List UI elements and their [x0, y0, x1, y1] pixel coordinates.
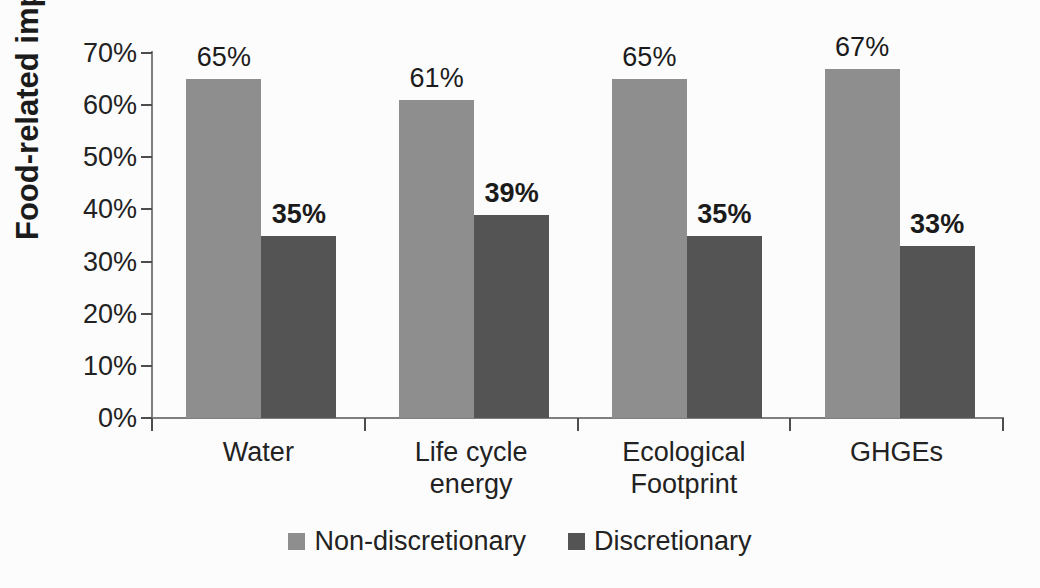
bar-discretionary-life-cycle-energy — [474, 215, 549, 418]
category-label-life-cycle-energy: Life cycle energy — [365, 436, 577, 500]
y-tick-label: 40% — [67, 194, 137, 224]
y-tick-mark — [141, 261, 152, 263]
legend: Non-discretionaryDiscretionary — [0, 526, 1040, 557]
bar-non-discretionary-ecological-footprint — [612, 79, 687, 418]
y-tick-label: 60% — [67, 90, 137, 120]
bar-value-label: 33% — [882, 209, 992, 239]
bar-non-discretionary-life-cycle-energy — [399, 100, 474, 418]
legend-item-non-discretionary: Non-discretionary — [288, 526, 526, 557]
y-tick-mark — [141, 208, 152, 210]
y-tick-label: 70% — [67, 38, 137, 68]
x-boundary-tick-mark — [151, 418, 153, 431]
y-tick-mark — [141, 313, 152, 315]
bar-value-label: 35% — [669, 199, 779, 229]
bar-non-discretionary-ghges — [825, 69, 900, 418]
y-tick-mark — [141, 104, 152, 106]
bar-value-label: 35% — [244, 199, 354, 229]
x-boundary-tick-mark — [364, 418, 366, 431]
x-boundary-tick-mark — [577, 418, 579, 431]
y-tick-mark — [141, 156, 152, 158]
bar-value-label: 67% — [807, 32, 917, 62]
legend-swatch-non-discretionary — [288, 533, 305, 550]
y-tick-label: 30% — [67, 247, 137, 277]
legend-item-discretionary: Discretionary — [568, 526, 752, 557]
bar-value-label: 65% — [594, 42, 704, 72]
bar-non-discretionary-water — [186, 79, 261, 418]
y-tick-label: 0% — [67, 403, 137, 433]
bar-discretionary-ecological-footprint — [687, 236, 762, 419]
bar-discretionary-water — [261, 236, 336, 419]
bar-discretionary-ghges — [900, 246, 975, 418]
bar-value-label: 61% — [382, 63, 492, 93]
category-label-water: Water — [152, 436, 364, 468]
legend-swatch-discretionary — [568, 533, 585, 550]
x-boundary-tick-mark — [1002, 418, 1004, 431]
bar-value-label: 39% — [457, 178, 567, 208]
legend-label-discretionary: Discretionary — [594, 526, 752, 557]
category-label-ecological-footprint: Ecological Footprint — [578, 436, 790, 500]
y-tick-label: 20% — [67, 299, 137, 329]
y-tick-mark — [141, 365, 152, 367]
y-tick-mark — [141, 52, 152, 54]
y-tick-label: 10% — [67, 351, 137, 381]
legend-label-non-discretionary: Non-discretionary — [314, 526, 526, 557]
category-label-ghges: GHGEs — [791, 436, 1003, 468]
chart-figure: Food-related impacts (%) 0%10%20%30%40%5… — [0, 0, 1040, 588]
x-boundary-tick-mark — [789, 418, 791, 431]
bar-value-label: 65% — [169, 42, 279, 72]
y-tick-label: 50% — [67, 142, 137, 172]
